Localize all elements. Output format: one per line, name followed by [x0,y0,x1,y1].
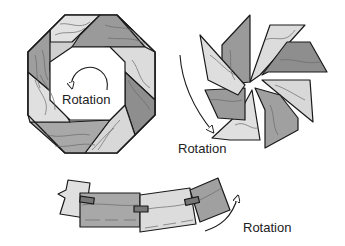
rotation-label-octagon: Rotation [62,93,110,106]
joined-chain [58,178,238,232]
pinwheel [180,15,327,148]
octagon-ring [28,15,155,153]
diagram-canvas [0,0,345,246]
rotation-label-chain: Rotation [243,221,291,234]
rotation-label-pinwheel: Rotation [178,142,226,155]
